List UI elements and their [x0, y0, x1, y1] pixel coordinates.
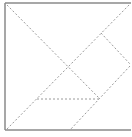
dashed-line-upper-right-edge: [101, 33, 130, 64]
dashed-line-lower-right-edge: [70, 66, 130, 130]
dashed-line-diag-tl-br: [7, 5, 100, 99]
dashed-line-diag-bl-tr: [7, 4, 130, 129]
tangram-diagram: [0, 0, 132, 137]
dashed-cut-lines: [7, 4, 130, 130]
